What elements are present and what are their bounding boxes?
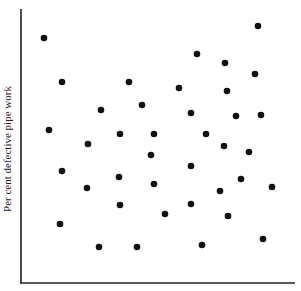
data-point — [203, 131, 210, 138]
data-point — [224, 88, 231, 95]
data-point — [98, 107, 105, 114]
data-point — [199, 242, 206, 249]
data-point — [57, 221, 64, 228]
data-point — [126, 79, 133, 86]
data-point — [117, 131, 124, 138]
data-point — [255, 23, 262, 30]
data-point — [233, 113, 240, 120]
data-point — [151, 131, 158, 138]
data-point — [85, 141, 92, 148]
data-point — [188, 201, 195, 208]
data-point — [46, 127, 53, 134]
data-point — [176, 85, 183, 92]
data-point — [238, 176, 245, 183]
data-points — [41, 23, 276, 251]
data-point — [117, 202, 124, 209]
data-point — [96, 244, 103, 251]
data-point — [134, 244, 141, 251]
data-point — [188, 110, 195, 117]
data-point — [41, 35, 48, 42]
data-point — [260, 236, 267, 243]
data-point — [188, 163, 195, 170]
data-point — [162, 211, 169, 218]
y-axis-label: Per cent defective pipe work — [0, 84, 14, 214]
data-point — [194, 51, 201, 58]
scatter-chart: Per cent defective pipe work — [0, 0, 301, 291]
data-point — [252, 71, 259, 78]
data-point — [258, 112, 265, 119]
data-point — [222, 60, 229, 67]
data-point — [269, 184, 276, 191]
data-point — [217, 188, 224, 195]
data-point — [221, 143, 228, 150]
data-point — [84, 185, 91, 192]
data-point — [139, 102, 146, 109]
y-axis-label-text: Per cent defective pipe work — [1, 86, 13, 212]
data-point — [246, 149, 253, 156]
data-point — [225, 213, 232, 220]
data-point — [148, 152, 155, 159]
data-point — [59, 79, 66, 86]
plot-area — [0, 0, 301, 291]
data-point — [116, 174, 123, 181]
data-point — [59, 168, 66, 175]
data-point — [151, 181, 158, 188]
